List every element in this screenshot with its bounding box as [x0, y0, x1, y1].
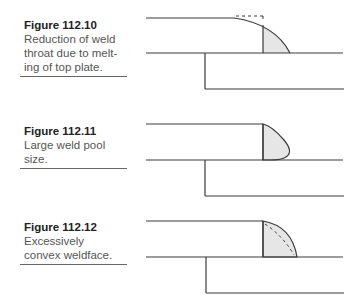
figure-112-12: Figure 112.12 Excessively convex weldfac… — [0, 200, 358, 308]
weld-diagram — [0, 100, 358, 200]
weld-diagram — [0, 200, 358, 308]
weld-diagram — [0, 0, 358, 100]
figure-112-10: Figure 112.10 Reduction of weld throat d… — [0, 0, 358, 100]
figure-112-11: Figure 112.11 Large weld pool size. — [0, 100, 358, 200]
